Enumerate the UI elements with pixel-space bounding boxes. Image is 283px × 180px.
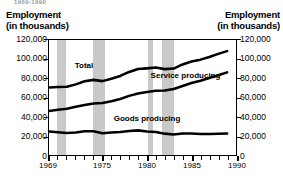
y-axis-label-left: 100,000 — [16, 54, 47, 63]
y-axis-tick — [237, 137, 241, 138]
y-axis-label-left: 120,000 — [16, 35, 47, 44]
x-axis-tick — [210, 156, 211, 160]
x-axis-tick — [174, 156, 175, 160]
left-axis-title: Employment (in thousands) — [6, 9, 69, 31]
x-axis-tick — [147, 156, 149, 161]
x-axis-tick — [93, 156, 94, 160]
x-axis-tick — [138, 156, 139, 160]
x-axis-tick — [129, 156, 130, 160]
y-axis-tick — [237, 117, 241, 118]
x-axis-tick — [75, 156, 76, 160]
x-axis-tick — [156, 156, 157, 160]
y-axis-label-right: 100,000 — [240, 54, 271, 63]
x-axis-tick — [183, 156, 184, 160]
y-axis-label-left: 0 — [42, 152, 47, 161]
y-axis-tick — [237, 59, 241, 60]
x-axis-tick — [102, 156, 104, 161]
x-axis-tick — [201, 156, 202, 160]
plot-frame — [48, 39, 237, 156]
y-axis-label-right: 0 — [240, 152, 245, 161]
employment-line-chart: 1969-1990 Employment (in thousands) Empl… — [0, 0, 283, 180]
y-axis-label-right: 60,000 — [240, 93, 266, 102]
x-axis-tick — [84, 156, 85, 160]
x-axis-tick — [165, 156, 166, 160]
y-axis-tick — [237, 98, 241, 99]
series-line-goods-producing — [49, 130, 227, 134]
x-axis-tick — [219, 156, 220, 160]
y-axis-label-right: 40,000 — [240, 113, 266, 122]
y-axis-tick — [237, 39, 241, 40]
series-label-total: Total — [75, 60, 94, 69]
x-axis-tick — [192, 156, 194, 161]
right-axis-title-line1: Employment — [217, 9, 280, 20]
left-axis-title-line1: Employment — [6, 9, 69, 20]
x-axis-tick — [120, 156, 121, 160]
y-axis-tick — [237, 78, 241, 79]
x-axis-label: 1969 — [39, 161, 57, 170]
x-axis-label: 1975 — [93, 161, 111, 170]
left-axis-title-line2: (in thousands) — [6, 20, 69, 31]
x-axis-label: 1980 — [138, 161, 156, 170]
y-axis-label-right: 120,000 — [240, 35, 271, 44]
series-lines — [49, 40, 236, 155]
y-axis-label-right: 80,000 — [240, 74, 266, 83]
x-axis-label: 1990 — [228, 161, 246, 170]
right-axis-title: Employment (in thousands) — [217, 9, 280, 31]
x-axis-tick — [237, 156, 239, 161]
x-axis-tick — [66, 156, 67, 160]
x-axis-tick — [48, 156, 50, 161]
x-axis-ticks — [48, 156, 237, 160]
x-axis-tick — [57, 156, 58, 160]
series-label-goods-producing: Goods producing — [114, 114, 181, 123]
y-axis-label-right: 20,000 — [240, 132, 266, 141]
plot-area-wrapper — [48, 39, 237, 156]
x-axis-tick — [111, 156, 112, 160]
cropped-title-text: 1969-1990 — [14, 0, 134, 5]
series-label-service-producing: Service producing — [151, 70, 221, 79]
right-axis-title-line2: (in thousands) — [217, 20, 280, 31]
x-axis-label: 1985 — [183, 161, 201, 170]
x-axis-tick — [228, 156, 229, 160]
